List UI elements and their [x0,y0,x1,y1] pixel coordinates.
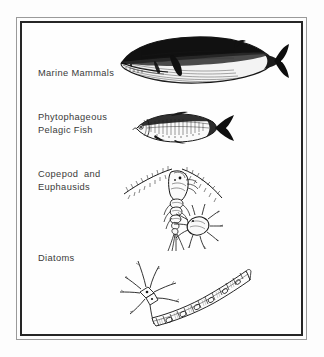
label-line-1: Phytophageous [38,112,107,122]
figure-root: Marine Mammals [0,0,324,357]
label-line-1: Copepod and [38,169,101,179]
trophic-level-label-marine-mammals: Marine Mammals [38,67,114,80]
whale-illustration [112,32,290,90]
trophic-level-label-copepod-and-euphausids: Copepod andEuphausids [38,168,101,194]
diatoms-illustration [116,256,256,328]
fish-illustration [131,108,237,148]
trophic-level-label-diatoms: Diatoms [38,252,75,265]
figure-content: Marine Mammals [0,0,324,357]
label-line-2: Pelagic Fish [38,125,93,135]
label-line-2: Euphausids [38,182,90,192]
copepod-illustration [122,158,244,253]
trophic-level-label-phytophageous-pelagic-fish: PhytophageousPelagic Fish [38,111,107,137]
